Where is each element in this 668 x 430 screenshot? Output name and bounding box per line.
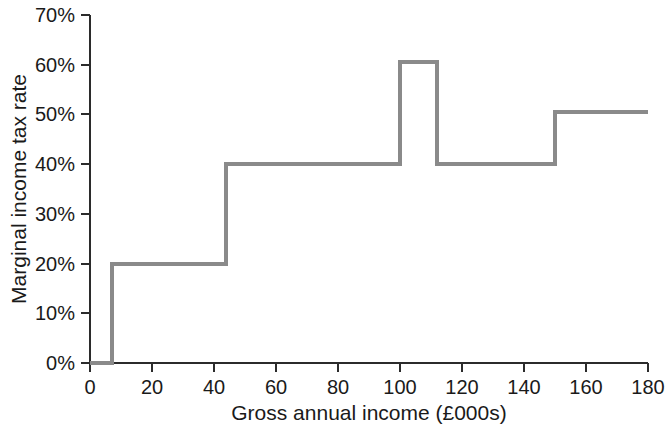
marginal-tax-rate-step-chart: 0%10%20%30%40%50%60%70% 0204060801001201…: [0, 0, 668, 430]
x-tick-label: 100: [383, 376, 416, 398]
x-tick-label: 80: [327, 376, 349, 398]
y-tick-label: 40%: [35, 153, 75, 175]
y-tick-label: 50%: [35, 103, 75, 125]
x-tick-label: 120: [445, 376, 478, 398]
y-tick-label: 30%: [35, 203, 75, 225]
x-tick-label: 180: [631, 376, 664, 398]
y-tick-label: 70%: [35, 4, 75, 26]
x-tick-label: 0: [84, 376, 95, 398]
x-tick-label: 40: [203, 376, 225, 398]
x-axis-title: Gross annual income (£000s): [231, 401, 506, 424]
y-tick-label: 10%: [35, 302, 75, 324]
chart-background: [0, 0, 668, 430]
y-axis-title: Marginal income tax rate: [7, 74, 30, 304]
x-tick-label: 20: [141, 376, 163, 398]
y-tick-label: 0%: [46, 352, 75, 374]
x-tick-label: 60: [265, 376, 287, 398]
chart-container: 0%10%20%30%40%50%60%70% 0204060801001201…: [0, 0, 668, 430]
y-tick-label: 60%: [35, 54, 75, 76]
x-tick-label: 160: [569, 376, 602, 398]
y-tick-label: 20%: [35, 253, 75, 275]
x-tick-label: 140: [507, 376, 540, 398]
